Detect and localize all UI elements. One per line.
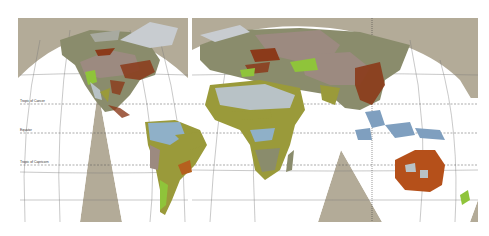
tropic-of-cancer-label: Tropic of Cancer — [20, 99, 45, 103]
australia — [395, 150, 445, 192]
equator-label: Equator — [20, 128, 32, 132]
world-vegetation-map: Tropic of Cancer Equator Tropic of Capri… — [0, 0, 489, 236]
map-canvas — [0, 0, 489, 236]
tropic-of-capricorn-label: Tropic of Capricorn — [20, 160, 49, 164]
